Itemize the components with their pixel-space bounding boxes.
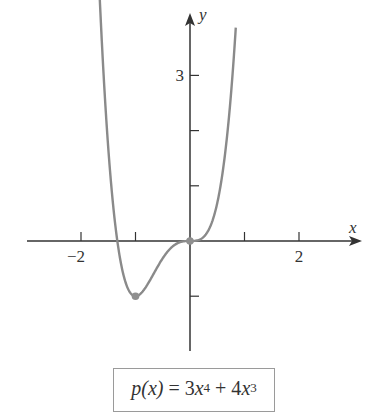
formula-plus: + 4 xyxy=(210,377,241,400)
highlighted-points xyxy=(132,237,194,300)
highlighted-point xyxy=(186,237,194,245)
formula-lhs: p(x) xyxy=(131,377,163,400)
x-axis-label: x xyxy=(348,218,357,237)
x-tick-label: 2 xyxy=(295,247,304,266)
y-axis-label: y xyxy=(197,5,207,24)
x-tick-labels: −22 xyxy=(67,247,303,266)
y-tick-label: 3 xyxy=(176,66,185,85)
y-ticks xyxy=(190,75,199,296)
formula-term2-var: x xyxy=(241,377,250,400)
y-tick-labels: 3 xyxy=(176,66,185,85)
x-tick-label: −2 xyxy=(67,247,85,266)
polynomial-curve xyxy=(100,0,236,296)
highlighted-point xyxy=(132,292,140,300)
formula-eq: = 3 xyxy=(163,377,194,400)
formula-label: p(x) = 3 x4 + 4 x3 xyxy=(113,368,275,412)
formula-term1-var: x xyxy=(195,377,204,400)
